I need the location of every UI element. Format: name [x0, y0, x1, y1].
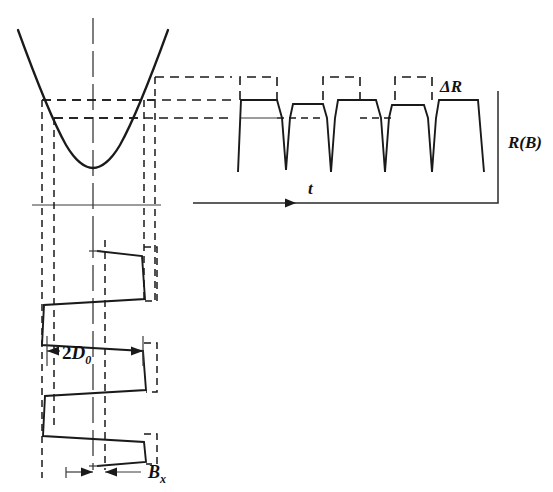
ideal-pulse-cap-3 [395, 77, 432, 100]
response-waveform [238, 100, 484, 172]
modulation-amplitude-label: 2D0 [62, 342, 91, 367]
time-axis-label: t [308, 179, 314, 198]
modulation-waveform [42, 251, 146, 466]
amplitude-prefix: 2 [62, 342, 72, 363]
field-offset-label: Bx [147, 462, 166, 486]
amplitude-symbol: D [71, 342, 86, 363]
amplitude-arrow-right [131, 347, 143, 356]
figure-root: t ΔR R(B) 2D0 Bx [0, 0, 553, 492]
offset-arrow-left [81, 468, 93, 477]
amplitude-subscript: 0 [85, 353, 91, 367]
magnetoresistance-diagram: t ΔR R(B) 2D0 Bx [0, 0, 553, 492]
ideal-pulse-cap-2 [323, 77, 360, 100]
resistance-axis-label: R(B) [507, 133, 542, 152]
amplitude-arrow-left [47, 347, 59, 356]
ideal-pulse-cap-1 [240, 77, 277, 100]
time-axis-arrowhead [285, 199, 296, 208]
offset-arrow-right [105, 468, 117, 477]
delta-r-label: ΔR [439, 77, 462, 96]
offset-symbol: B [147, 462, 160, 482]
offset-subscript: x [159, 472, 166, 486]
